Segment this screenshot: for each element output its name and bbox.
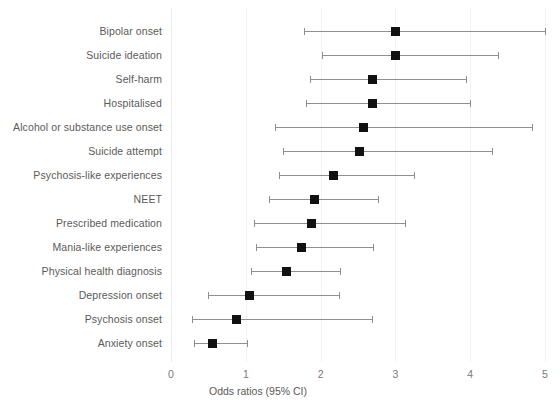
confidence-interval-line [254, 223, 405, 224]
confidence-interval-cap-upper [532, 124, 533, 131]
confidence-interval-line [283, 151, 492, 152]
confidence-interval-cap-lower [279, 172, 280, 179]
confidence-interval-cap-upper [470, 100, 471, 107]
odds-ratio-marker [297, 243, 306, 252]
gridline-2 [321, 8, 322, 362]
confidence-interval-cap-lower [192, 316, 193, 323]
category-label: Physical health diagnosis [42, 265, 162, 277]
confidence-interval-line [256, 247, 373, 248]
confidence-interval-cap-lower [254, 220, 255, 227]
category-label: Hospitalised [104, 97, 162, 109]
category-label: Depression onset [79, 289, 162, 301]
x-tick-label: 1 [243, 368, 249, 380]
confidence-interval-cap-upper [466, 76, 467, 83]
odds-ratio-marker [282, 267, 291, 276]
confidence-interval-cap-upper [492, 148, 493, 155]
category-label: Psychosis-like experiences [33, 169, 162, 181]
category-label: NEET [134, 193, 162, 205]
category-label: Prescribed medication [56, 217, 162, 229]
category-label: Self-harm [116, 73, 162, 85]
category-label: Alcohol or substance use onset [13, 121, 162, 133]
confidence-interval-cap-upper [339, 292, 340, 299]
odds-ratio-marker [307, 219, 316, 228]
gridline-5 [545, 8, 546, 362]
confidence-interval-cap-lower [283, 148, 284, 155]
odds-ratio-marker [329, 171, 338, 180]
odds-ratio-marker [359, 123, 368, 132]
confidence-interval-line [306, 103, 471, 104]
plot-area: Bipolar onsetSuicide ideationSelf-harmHo… [0, 0, 560, 362]
confidence-interval-cap-upper [378, 196, 379, 203]
category-label: Anxiety onset [98, 337, 162, 349]
gridline-3 [395, 8, 396, 362]
category-label: Suicide ideation [86, 49, 162, 61]
category-label: Mania-like experiences [52, 241, 162, 253]
confidence-interval-line [208, 295, 339, 296]
confidence-interval-cap-lower [256, 244, 257, 251]
x-tick-label: 3 [392, 368, 398, 380]
confidence-interval-cap-lower [306, 100, 307, 107]
odds-ratio-marker [355, 147, 364, 156]
confidence-interval-cap-lower [304, 28, 305, 35]
odds-ratio-marker [232, 315, 241, 324]
confidence-interval-cap-upper [372, 316, 373, 323]
confidence-interval-line [269, 199, 378, 200]
category-label: Psychosis onset [85, 313, 162, 325]
x-tick-label: 0 [168, 368, 174, 380]
confidence-interval-line [194, 343, 247, 344]
confidence-interval-cap-upper [340, 268, 341, 275]
confidence-interval-cap-upper [247, 340, 248, 347]
confidence-interval-cap-upper [414, 172, 415, 179]
confidence-interval-line [192, 319, 372, 320]
confidence-interval-line [275, 127, 532, 128]
confidence-interval-cap-lower [322, 52, 323, 59]
confidence-interval-line [322, 55, 498, 56]
confidence-interval-line [310, 79, 466, 80]
confidence-interval-cap-lower [275, 124, 276, 131]
odds-ratio-marker [208, 339, 217, 348]
confidence-interval-line [304, 31, 545, 32]
confidence-interval-cap-upper [373, 244, 374, 251]
odds-ratio-marker [245, 291, 254, 300]
x-axis-title-text: Odds ratios (95% CI) [209, 385, 307, 397]
confidence-interval-cap-lower [269, 196, 270, 203]
gridline-4 [470, 8, 471, 362]
gridline-0 [171, 8, 172, 362]
forest-plot-chart: Bipolar onsetSuicide ideationSelf-harmHo… [0, 0, 560, 408]
x-tick-label: 5 [542, 368, 548, 380]
odds-ratio-marker [310, 195, 319, 204]
odds-ratio-marker [368, 75, 377, 84]
confidence-interval-cap-upper [545, 28, 546, 35]
odds-ratio-marker [391, 27, 400, 36]
category-label: Bipolar onset [99, 25, 162, 37]
x-tick-label: 2 [318, 368, 324, 380]
confidence-interval-line [251, 271, 340, 272]
confidence-interval-cap-lower [310, 76, 311, 83]
x-axis-title: Odds ratios (95% CI) [0, 385, 560, 397]
confidence-interval-line [279, 175, 414, 176]
confidence-interval-cap-lower [208, 292, 209, 299]
category-label: Suicide attempt [88, 145, 162, 157]
confidence-interval-cap-lower [194, 340, 195, 347]
confidence-interval-cap-upper [405, 220, 406, 227]
gridline-1 [246, 8, 247, 362]
confidence-interval-cap-lower [251, 268, 252, 275]
odds-ratio-marker [391, 51, 400, 60]
x-tick-label: 4 [467, 368, 473, 380]
confidence-interval-cap-upper [498, 52, 499, 59]
odds-ratio-marker [368, 99, 377, 108]
